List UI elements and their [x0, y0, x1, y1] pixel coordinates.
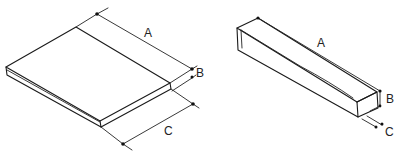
slab-dim-c-left-dot [121, 142, 125, 146]
slab-label-b: B [196, 66, 204, 80]
bar-inner-edge [241, 30, 353, 98]
bar-label-a: A [317, 36, 325, 50]
slab-dim-a-start-dot [95, 12, 99, 16]
bar-dim-a-line [258, 18, 380, 91]
bar-dim-c-right-dot [381, 123, 384, 126]
bar-dim-b-top-dot [378, 89, 381, 92]
slab-label-c: C [164, 124, 173, 138]
slab-label-a: A [144, 26, 152, 40]
bar-label-c: C [385, 125, 394, 139]
slab-dim-c-ext-right [171, 89, 199, 108]
slab-top-face [6, 27, 170, 121]
bar-top-face [237, 18, 377, 102]
bar-inner-edge-left [241, 30, 242, 48]
slab-dim-c-right-dot [191, 102, 195, 106]
bar-drawing: A B C [237, 16, 394, 139]
slab-dim-b-top-dot [190, 67, 194, 71]
slab-drawing: A B C [6, 8, 204, 150]
dimension-diagram: A B C A B C [0, 0, 402, 157]
bar-dim-b-bottom-dot [379, 105, 382, 108]
slab-dim-b-bottom-dot [191, 76, 194, 79]
slab-dim-a-line [97, 14, 192, 69]
slab-side-inner-edge [7, 70, 100, 122]
slab-right-side-face [101, 83, 171, 127]
bar-end-face [357, 92, 378, 117]
slab-dim-c-line [123, 104, 193, 144]
bar-dim-c-left-dot [375, 126, 378, 129]
bar-dim-a-start-dot [256, 16, 259, 19]
slab-dim-c-ext-left [101, 127, 132, 150]
slab-left-side-face [6, 67, 101, 127]
bar-label-b: B [386, 92, 394, 106]
